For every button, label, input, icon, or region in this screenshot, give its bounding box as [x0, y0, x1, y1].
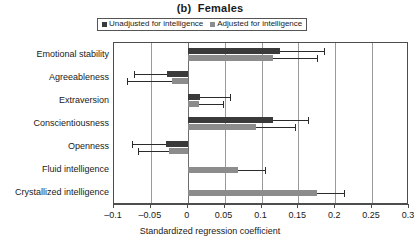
x-axis-tick-label: 0.1: [254, 210, 267, 220]
x-axis-tick: [261, 204, 262, 208]
bar: [188, 117, 273, 123]
y-axis-tick-label: Openness: [0, 141, 109, 151]
x-axis-tick-label: –0.05: [139, 210, 162, 220]
bar: [166, 141, 188, 147]
legend-item-unadjusted: Unadjusted for intelligence: [102, 20, 203, 28]
bar: [188, 101, 199, 107]
error-bar: [138, 151, 170, 152]
error-bar: [238, 170, 265, 171]
error-bar-cap: [265, 167, 266, 174]
error-bar: [273, 120, 308, 121]
x-axis-tick: [113, 204, 114, 208]
error-bar: [317, 193, 344, 194]
bar-group: [114, 136, 407, 159]
error-bar: [200, 97, 230, 98]
x-axis-tick: [334, 204, 335, 208]
x-axis-tick-label: 0.25: [362, 210, 380, 220]
legend-swatch-unadjusted: [102, 22, 107, 27]
error-bar-cap: [132, 141, 133, 148]
x-axis-tick: [408, 204, 409, 208]
plot-area: [113, 42, 408, 204]
bar: [188, 94, 201, 100]
bar: [169, 148, 187, 154]
y-axis-tick-label: Extraversion: [0, 95, 109, 105]
bar-group: [114, 182, 407, 205]
x-axis-tick: [187, 204, 188, 208]
legend-item-adjusted: Adjusted for intelligence: [210, 20, 302, 28]
error-bar-cap: [134, 71, 135, 78]
y-axis-tick-label: Emotional stability: [0, 49, 109, 59]
x-axis-tick-label: 0.2: [328, 210, 341, 220]
bar: [188, 124, 257, 130]
error-bar: [199, 104, 223, 105]
chart-legend: Unadjusted for intelligence Adjusted for…: [97, 18, 307, 31]
bar-group: [114, 66, 407, 89]
bar: [188, 190, 317, 196]
error-bar-cap: [324, 48, 325, 55]
error-bar-cap: [127, 78, 128, 85]
chart-figure: (b) Females Unadjusted for intelligence …: [0, 0, 420, 244]
chart-title: (b) Females: [0, 2, 420, 14]
bar-group: [114, 89, 407, 112]
x-axis-tick: [150, 204, 151, 208]
bar: [167, 71, 188, 77]
error-bar: [132, 144, 165, 145]
bar-group: [114, 112, 407, 135]
x-axis: –0.1–0.0500.050.10.150.20.250.3: [113, 204, 408, 205]
error-bar: [134, 74, 167, 75]
legend-label-unadjusted: Unadjusted for intelligence: [109, 20, 203, 28]
error-bar-cap: [138, 148, 139, 155]
error-bar: [273, 58, 317, 59]
legend-label-adjusted: Adjusted for intelligence: [217, 20, 302, 28]
legend-swatch-adjusted: [210, 22, 215, 27]
y-axis-tick-label: Agreeableness: [0, 72, 109, 82]
bar-group: [114, 159, 407, 182]
x-axis-title: Standardized regression coefficient: [0, 226, 420, 236]
x-axis-tick: [297, 204, 298, 208]
error-bar-cap: [230, 94, 231, 101]
x-axis-tick: [224, 204, 225, 208]
error-bar-cap: [317, 55, 318, 62]
y-axis-tick-label: Crystallized intelligence: [0, 187, 109, 197]
y-axis-tick-label: Conscientiousness: [0, 118, 109, 128]
x-axis-tick-label: 0.3: [402, 210, 415, 220]
error-bar-cap: [223, 101, 224, 108]
bar-group: [114, 43, 407, 66]
x-axis-tick: [371, 204, 372, 208]
x-axis-tick-label: 0: [184, 210, 189, 220]
bar: [188, 48, 280, 54]
error-bar-cap: [344, 190, 345, 197]
error-bar: [256, 127, 294, 128]
x-axis-tick-label: –0.1: [104, 210, 122, 220]
bar: [188, 55, 273, 61]
error-bar: [280, 51, 324, 52]
error-bar: [127, 81, 171, 82]
x-axis-tick-label: 0.05: [215, 210, 233, 220]
error-bar-cap: [295, 124, 296, 131]
y-axis-tick-label: Fluid intelligence: [0, 164, 109, 174]
bar: [172, 78, 188, 84]
error-bar-cap: [308, 117, 309, 124]
bar: [188, 167, 238, 173]
x-axis-tick-label: 0.15: [289, 210, 307, 220]
